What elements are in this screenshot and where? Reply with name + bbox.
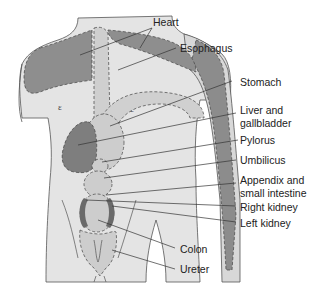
esophagus-central (94, 27, 110, 120)
label-right-kidney: Right kidney (240, 201, 298, 214)
label-heart: Heart (153, 16, 179, 29)
referred-pain-diagram: ɛ ɛ Heart Esophagus Stomach Liver and ga… (0, 0, 313, 291)
label-left-kidney: Left kidney (240, 217, 291, 230)
label-esophagus: Esophagus (180, 42, 233, 55)
label-colon: Colon (180, 243, 207, 256)
label-stomach: Stomach (240, 76, 281, 89)
label-pylorus: Pylorus (240, 134, 275, 147)
label-umbilicus: Umbilicus (240, 154, 286, 167)
label-appendix-line1: Appendix and (240, 174, 304, 187)
small-intestine-region (84, 171, 112, 197)
svg-text:ɛ: ɛ (58, 102, 62, 112)
label-liver-line1: Liver and (240, 104, 283, 117)
label-appendix-line2: small intestine (240, 187, 307, 200)
label-ureter: Ureter (180, 263, 209, 276)
label-liver-line2: gallbladder (240, 117, 291, 130)
